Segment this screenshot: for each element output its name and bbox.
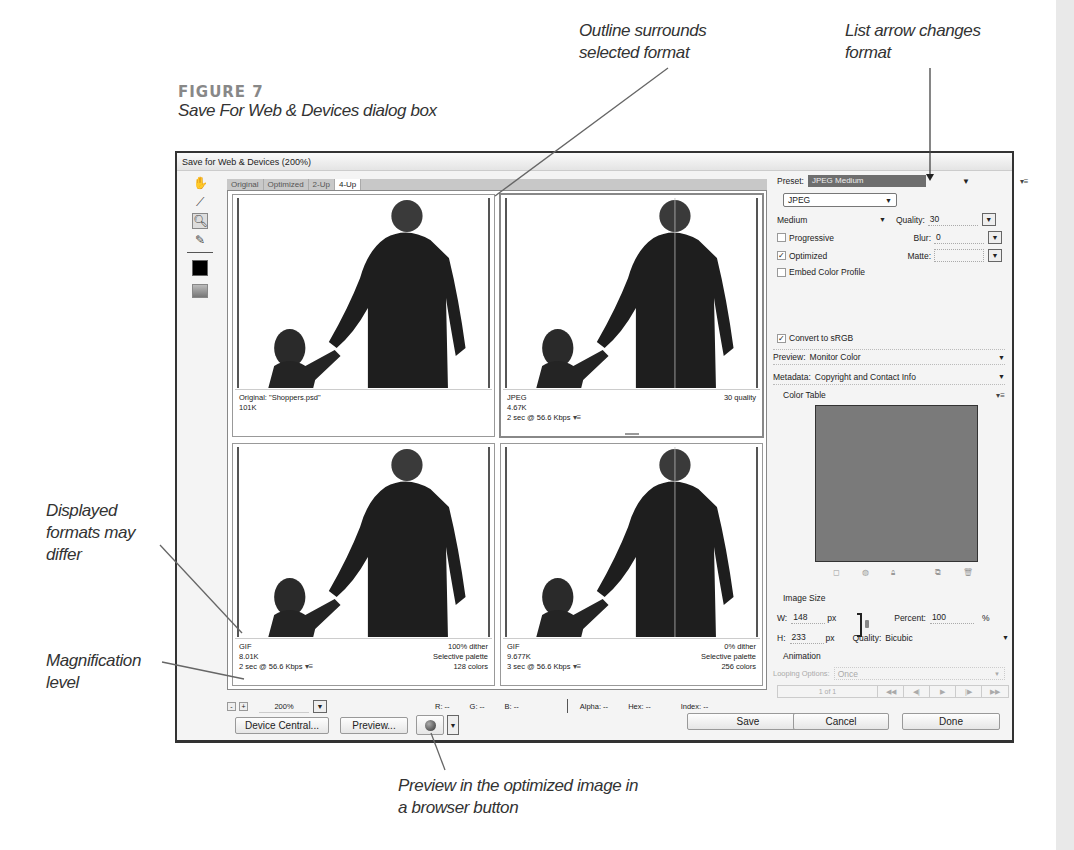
quality-slider-button[interactable]: ▼ [982,213,996,226]
progressive-label: Progressive [789,233,911,243]
download-rate-menu-icon[interactable]: ▾≡ [573,413,582,422]
preview-button[interactable]: Preview... [340,717,408,734]
format-label: Original: "Shoppers.psd" [239,393,488,403]
optimized-checkbox[interactable]: ✓ [777,251,786,260]
pane-gif-256[interactable]: GIF 9.677K 3 sec @ 56.6 Kbps ▾≡ 0% dithe… [500,443,763,686]
color-table[interactable] [815,405,978,562]
percent-label: Percent: [894,613,926,623]
chevron-down-icon: ▼ [450,722,457,729]
width-input[interactable]: 148 [791,611,825,624]
file-format-select[interactable]: JPEG ▼ [783,193,897,207]
optimized-label: Optimized [789,251,899,261]
web-snap-icon[interactable]: ◍ [862,568,869,578]
quality-label: Quality: [896,215,925,225]
looping-row: Looping Options: Once ▼ [773,667,1005,680]
image-size-label: Image Size [783,593,826,603]
new-color-icon[interactable]: ⧉ [935,568,941,578]
last-frame-button[interactable]: ▶▶ [982,686,1008,697]
optimize-menu-icon[interactable]: ▾≡ [1020,177,1029,186]
zoom-out-button[interactable]: - [227,702,236,711]
preview-value: Monitor Color [810,352,998,362]
browser-select-dropdown[interactable]: ▼ [447,715,459,735]
blur-slider-button[interactable]: ▼ [988,231,1002,244]
metadata-row[interactable]: Metadata: Copyright and Contact Info ▼ [773,369,1005,385]
download-rate-menu-icon[interactable]: ▾≡ [573,662,582,671]
matte-input[interactable] [934,249,984,262]
first-frame-button[interactable]: ◀◀ [878,686,904,697]
format-details: 30 quality [724,393,756,403]
tab-original[interactable]: Original [227,179,264,190]
chevron-down-icon: ▼ [992,252,999,259]
play-button[interactable]: ▶ [930,686,956,697]
preview-row[interactable]: Preview: Monitor Color ▼ [773,349,1005,365]
looping-options-select[interactable]: Once ▼ [834,667,1005,680]
progressive-row: Progressive Blur: 0 ▼ [777,231,1005,244]
pane-original[interactable]: Original: "Shoppers.psd" 101K [232,194,495,437]
slice-select-tool-icon[interactable]: ⟋ [192,194,208,210]
save-for-web-dialog: Save for Web & Devices (200%) ✋ ⟋ 🔍︎ ✎ O… [175,151,1014,743]
height-row: H: 233 px Quality: Bicubic ▼ [777,631,1009,644]
toolbox: ✋ ⟋ 🔍︎ ✎ [185,175,215,298]
progressive-checkbox[interactable] [777,233,786,242]
callout-displayed-formats: Displayed formats may differ [46,500,135,566]
callout-line: Outline surrounds [579,20,706,42]
pane-info: GIF 9.677K 3 sec @ 56.6 Kbps ▾≡ 0% dithe… [503,638,760,683]
preset-label: Preset: [777,176,804,186]
callout-outline: Outline surrounds selected format [579,20,706,64]
cancel-button[interactable]: Cancel [793,713,889,730]
preset-list-arrow-icon[interactable]: ▼ [962,177,970,186]
map-transparency-icon[interactable]: ◻ [833,568,840,578]
percent-input[interactable]: 100 [930,611,974,624]
eyedropper-color-swatch[interactable] [192,260,208,276]
chevron-down-icon: ▼ [994,671,1000,677]
resample-quality-select[interactable]: Bicubic [885,633,1002,643]
blur-input[interactable]: 0 [934,231,984,244]
height-input[interactable]: 233 [790,631,824,644]
zoom-tool-icon[interactable]: 🔍︎ [192,213,208,229]
pane-jpeg-selected[interactable]: JPEG 4.67K 2 sec @ 56.6 Kbps ▾≡ 30 quali… [500,194,763,437]
srgb-row: ✓ Convert to sRGB [777,333,853,343]
hand-tool-icon[interactable]: ✋ [192,175,208,191]
device-central-button[interactable]: Device Central... [235,717,329,734]
browser-globe-icon [425,720,436,731]
tab-optimized[interactable]: Optimized [264,179,309,190]
frame-counter: 1 of 1 [778,686,878,697]
callout-magnification: Magnification level [46,650,141,694]
done-button[interactable]: Done [902,713,1000,730]
quality-preset-select[interactable]: Medium [777,215,879,225]
format-details: 100% dither Selective palette 128 colors [433,642,488,672]
chevron-down-icon: ▼ [885,197,892,204]
green-readout: G: -- [470,702,485,711]
embed-color-profile-checkbox[interactable] [777,268,786,277]
pane-gif-128[interactable]: GIF 8.01K 2 sec @ 56.6 Kbps ▾≡ 100% dith… [232,443,495,686]
width-row: W: 148 px Percent: 100 % [777,611,1009,624]
toggle-slices-visibility-icon[interactable] [192,284,208,298]
zoom-level-field[interactable]: 200% [259,700,309,713]
quality-input[interactable]: 30 [928,213,978,226]
preview-image [505,447,758,637]
zoom-level-dropdown[interactable]: ▼ [313,700,327,713]
preview-in-browser-button[interactable] [416,715,444,735]
chevron-down-icon: ▼ [998,354,1005,361]
callout-line: List arrow changes [845,20,980,42]
save-button[interactable]: Save [687,713,809,730]
next-frame-button[interactable]: |▶ [956,686,982,697]
chevron-down-icon[interactable]: ▼ [879,216,886,223]
tab-4-up[interactable]: 4-Up [335,179,361,190]
color-table-menu-icon[interactable]: ▾≡ [996,391,1005,400]
lock-color-icon[interactable]: 🔒︎ [891,568,895,578]
resize-handle[interactable] [625,433,639,435]
eyedropper-tool-icon[interactable]: ✎ [192,232,208,248]
download-rate-menu-icon[interactable]: ▾≡ [305,662,314,671]
matte-dropdown[interactable]: ▼ [988,249,1002,262]
link-constrain-icon[interactable] [865,620,869,628]
height-label: H: [777,633,786,643]
tab-2-up[interactable]: 2-Up [309,179,335,190]
preset-select[interactable]: JPEG Medium [808,175,926,187]
previous-frame-button[interactable]: ◀| [904,686,930,697]
delete-color-icon[interactable]: 🗑︎ [963,568,973,578]
convert-srgb-checkbox[interactable]: ✓ [777,334,786,343]
zoom-in-button[interactable]: + [239,702,248,711]
animation-controls: 1 of 1 ◀◀ ◀| ▶ |▶ ▶▶ [777,685,1009,698]
pane-info: JPEG 4.67K 2 sec @ 56.6 Kbps ▾≡ 30 quali… [503,389,760,434]
